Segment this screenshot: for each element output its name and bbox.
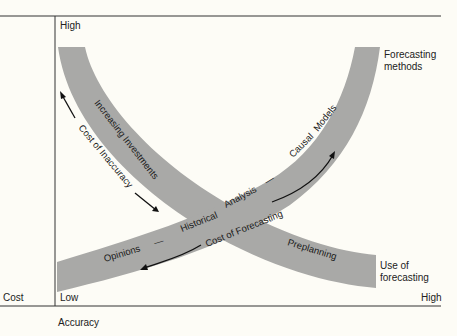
y-axis-high-label: High (60, 20, 81, 32)
y-axis-title: Cost (3, 292, 24, 304)
arrow-down-right-icon (135, 193, 159, 212)
use-of-forecasting-label-line1: Use of (380, 260, 409, 272)
forecasting-methods-label-line2: methods (384, 61, 422, 73)
x-axis-title: Accuracy (58, 317, 99, 329)
use-of-forecasting-label-line2: forecasting (380, 272, 429, 284)
x-axis-high-label: High (421, 292, 442, 304)
diagram-frame: Increasing Investments Preplanning Opini… (0, 0, 457, 336)
forecasting-methods-label-line1: Forecasting (384, 49, 436, 61)
axis-low-label: Low (60, 292, 78, 304)
